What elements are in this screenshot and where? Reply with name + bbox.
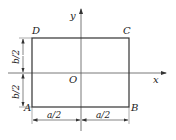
dimension-label-b-half-bottom: b/2 [11, 84, 21, 99]
axis-label-y: y [69, 10, 76, 21]
rectangle-abcd [32, 38, 129, 107]
axis-label-x: x [153, 74, 159, 85]
dimension-label-b-half-top: b/2 [11, 49, 21, 64]
dimension-label-a-half-right: a/2 [96, 110, 110, 120]
origin-label: O [69, 74, 77, 85]
dimension-label-a-half-left: a/2 [47, 110, 61, 120]
corner-label-b: B [130, 102, 138, 113]
corner-label-a: A [23, 102, 31, 113]
corner-label-c: C [123, 25, 131, 36]
corner-label-d: D [31, 25, 40, 36]
diagram-canvas: y x O D C A B a/2 a/2 b/2 b/2 [0, 0, 176, 140]
